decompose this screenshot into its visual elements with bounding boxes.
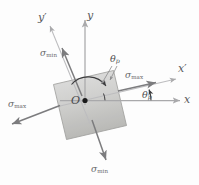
prime-mark-y: ′: [44, 11, 46, 23]
origin-label: O: [71, 95, 80, 106]
sigma-min-lower-subscript: min: [97, 168, 108, 174]
sigma-max-right-subscript: max: [131, 74, 143, 80]
principal-stress-diagram: y′ y x′ x σmin σmax σmax σmin θp θp O: [0, 0, 199, 185]
theta-p-lower-label: θp: [142, 90, 152, 101]
theta-p-upper-label: θp: [110, 54, 120, 65]
sigma-max-left-label: σmax: [8, 100, 26, 110]
origin-dot: [82, 98, 87, 103]
sigma-max-right-label: σmax: [125, 71, 143, 81]
theta-p-lower-subscript: p: [148, 93, 152, 100]
sigma-max-left-subscript: max: [14, 103, 26, 109]
theta-p-upper-subscript: p: [116, 57, 120, 64]
sigma-min-upper-label: σmin: [40, 49, 57, 59]
x-axis-label: x: [184, 94, 190, 105]
y-prime-axis-label: y′: [38, 12, 47, 23]
sigma-min-upper-subscript: min: [46, 52, 57, 58]
diagram-canvas: [0, 0, 199, 185]
sigma-min-lower-label: σmin: [91, 165, 108, 175]
x-prime-axis-label: x′: [178, 63, 187, 74]
y-axis-label: y: [87, 10, 93, 21]
prime-mark-x: ′: [184, 62, 186, 74]
